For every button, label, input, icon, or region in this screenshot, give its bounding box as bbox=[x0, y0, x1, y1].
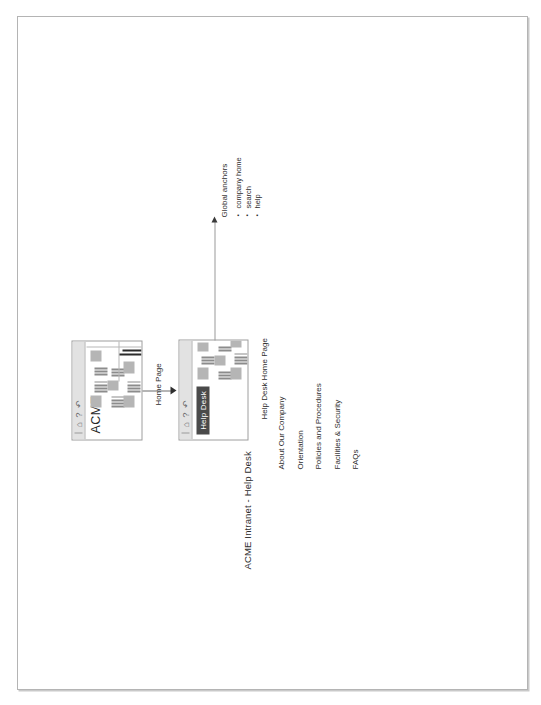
global-anchor-help[interactable]: help bbox=[252, 157, 262, 208]
content-image-block bbox=[197, 367, 208, 379]
diagram-rotation-wrapper: ACME Intranet - Help Desk ⌂ ? ↶ ACME bbox=[18, 17, 529, 691]
caption-helpdesk-page: Help Desk Home Page bbox=[259, 338, 268, 419]
layout-rule bbox=[118, 340, 119, 381]
content-image-block bbox=[123, 361, 134, 373]
menu-item-about-our-company[interactable]: About Our Company bbox=[276, 259, 285, 469]
menu-item-orientation[interactable]: Orientation bbox=[295, 259, 304, 469]
wireframe-helpdesk-toolbar: ⌂ ? ↶ bbox=[179, 340, 192, 439]
content-image-block bbox=[107, 380, 118, 390]
page-sheet: ACME Intranet - Help Desk ⌂ ? ↶ ACME bbox=[17, 16, 528, 690]
menu-item-faqs[interactable]: FAQs bbox=[350, 259, 359, 469]
menu-item-facilities-and-security[interactable]: Facilities & Security bbox=[332, 259, 341, 469]
menu-item-policies-and-procedures[interactable]: Policies and Procedures bbox=[313, 259, 322, 469]
content-image-block bbox=[90, 350, 101, 361]
global-anchors-leader-line bbox=[214, 219, 215, 340]
diagram-title: ACME Intranet - Help Desk bbox=[241, 451, 252, 569]
content-image-block bbox=[230, 340, 241, 347]
content-text-lines bbox=[229, 351, 242, 364]
caption-home-page: Home Page bbox=[153, 363, 162, 405]
global-anchor-search[interactable]: search bbox=[243, 157, 253, 208]
global-anchor-icons[interactable]: ⌂ ? ↶ bbox=[73, 399, 84, 427]
content-text-lines bbox=[196, 354, 209, 364]
content-image-block bbox=[90, 395, 101, 407]
toolbar-divider-icon bbox=[74, 432, 82, 433]
wireframe-home-toolbar: ⌂ ? ↶ bbox=[72, 341, 85, 439]
diagram-canvas: ACME Intranet - Help Desk ⌂ ? ↶ ACME bbox=[18, 17, 529, 691]
wireframe-helpdesk-nav-tab[interactable]: Help Desk bbox=[196, 386, 209, 434]
wireframe-helpdesk-page[interactable]: ⌂ ? ↶ Help Desk bbox=[178, 339, 248, 440]
content-text-lines bbox=[213, 369, 226, 379]
content-text-lines bbox=[106, 394, 119, 407]
connector-arrowhead-icon bbox=[170, 387, 176, 395]
global-anchor-icons[interactable]: ⌂ ? ↶ bbox=[180, 399, 191, 427]
content-text-lines bbox=[122, 379, 135, 392]
content-text-lines bbox=[213, 345, 226, 351]
toolbar-divider-icon bbox=[181, 432, 189, 433]
content-text-lines bbox=[89, 379, 102, 392]
content-image-block bbox=[197, 342, 208, 351]
content-image-block bbox=[214, 355, 225, 365]
global-anchors-arrowhead-icon bbox=[211, 216, 217, 222]
global-anchors-title: Global anchors bbox=[219, 157, 228, 217]
global-anchor-company-home[interactable]: company home bbox=[233, 157, 243, 208]
content-text-lines bbox=[106, 366, 119, 376]
wireframe-home-page[interactable]: ⌂ ? ↶ ACME bbox=[71, 340, 142, 440]
layout-rule bbox=[86, 346, 142, 347]
content-image-block bbox=[230, 367, 241, 379]
content-text-lines bbox=[89, 365, 102, 375]
content-image-block bbox=[123, 395, 134, 407]
global-anchors-list: company home search help bbox=[233, 157, 262, 217]
global-anchors-annotation: Global anchors company home search help bbox=[219, 157, 262, 217]
helpdesk-section-menu: About Our Company Orientation Policies a… bbox=[276, 259, 369, 469]
